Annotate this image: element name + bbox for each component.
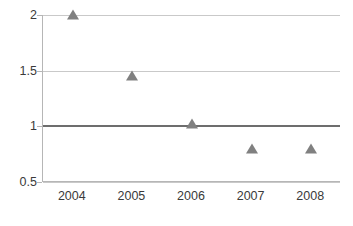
y-axis-tick-label: 1 (30, 120, 37, 133)
gridline (43, 182, 340, 183)
y-axis-tick-label: 0.5 (20, 176, 37, 189)
x-axis-tick-label: 2006 (177, 190, 205, 203)
y-axis-tick-mark (37, 71, 42, 72)
y-axis-tick-label: 1.5 (20, 64, 37, 77)
data-point-marker (186, 119, 198, 129)
gridline (43, 15, 340, 16)
x-axis-tick-label: 2008 (296, 190, 324, 203)
plot-area (42, 15, 340, 182)
y-axis-tick-mark (37, 182, 42, 183)
x-axis-tick-label: 2005 (117, 190, 145, 203)
data-point-marker (246, 143, 258, 153)
y-axis-tick-mark (37, 126, 42, 127)
x-axis-tick-label: 2007 (237, 190, 265, 203)
data-point-marker (126, 71, 138, 81)
data-point-marker (67, 10, 79, 20)
data-point-marker (305, 143, 317, 153)
y-axis-tick-mark (37, 15, 42, 16)
scatter-chart: 21.510.5 20042005200620072008 (0, 0, 353, 226)
y-axis-tick-label: 2 (30, 9, 37, 22)
x-axis-tick-label: 2004 (58, 190, 86, 203)
gridline (43, 71, 340, 72)
